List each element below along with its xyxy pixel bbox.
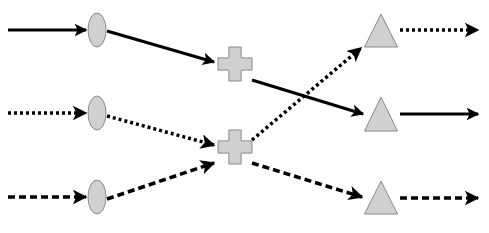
cross-node-mid1 — [218, 47, 252, 81]
cross-node-mid2 — [218, 130, 252, 164]
arrow-mid1-out2 — [252, 80, 363, 114]
flow-diagram — [0, 0, 489, 233]
nodes-layer — [88, 13, 398, 214]
arrow-in3-mid2 — [107, 163, 214, 199]
triangle-node-out3 — [365, 181, 398, 214]
triangle-node-out2 — [365, 97, 398, 131]
ellipse-node-in3 — [88, 180, 106, 214]
arrow-in2-mid2 — [107, 116, 214, 145]
ellipse-node-in2 — [88, 96, 106, 130]
edges-layer — [8, 30, 478, 199]
triangle-node-out1 — [365, 14, 398, 47]
arrow-mid2-out1 — [252, 48, 361, 140]
ellipse-node-in1 — [88, 13, 106, 47]
arrow-mid2-out3 — [252, 163, 362, 197]
arrow-in1-mid1 — [107, 31, 214, 62]
